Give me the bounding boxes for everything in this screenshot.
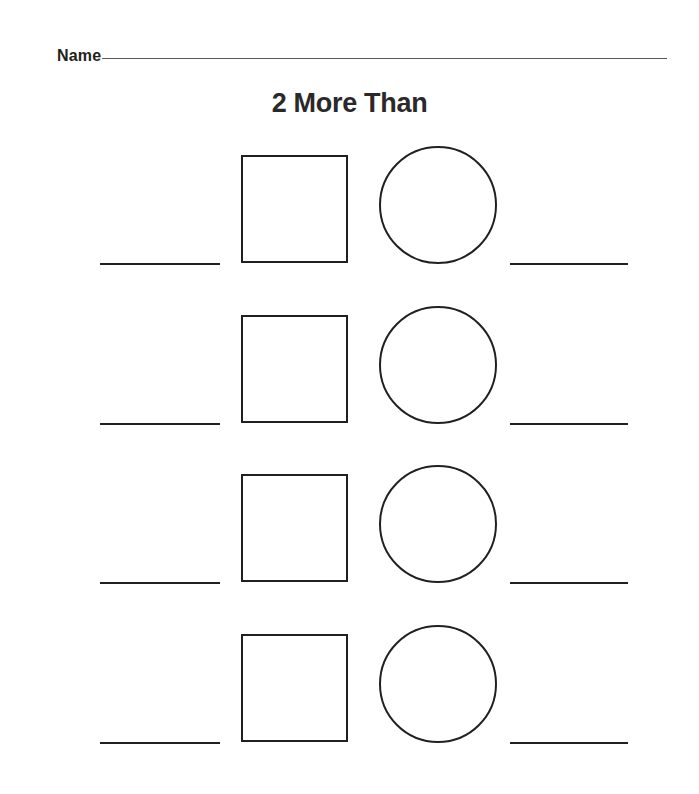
circle-shape[interactable]: [379, 465, 497, 583]
right-answer-line[interactable]: [510, 582, 628, 584]
problem-rows: [0, 0, 699, 794]
problem-row: [0, 135, 699, 265]
right-answer-line[interactable]: [510, 423, 628, 425]
square-shape[interactable]: [241, 315, 348, 423]
circle-shape[interactable]: [379, 306, 497, 424]
right-answer-line[interactable]: [510, 263, 628, 265]
worksheet-page: Name 2 More Than: [0, 0, 699, 794]
circle-shape[interactable]: [379, 625, 497, 743]
right-answer-line[interactable]: [510, 742, 628, 744]
left-answer-line[interactable]: [100, 582, 220, 584]
square-shape[interactable]: [241, 155, 348, 263]
left-answer-line[interactable]: [100, 263, 220, 265]
left-answer-line[interactable]: [100, 742, 220, 744]
problem-row: [0, 295, 699, 425]
square-shape[interactable]: [241, 634, 348, 742]
problem-row: [0, 614, 699, 744]
circle-shape[interactable]: [379, 146, 497, 264]
left-answer-line[interactable]: [100, 423, 220, 425]
square-shape[interactable]: [241, 474, 348, 582]
problem-row: [0, 454, 699, 584]
